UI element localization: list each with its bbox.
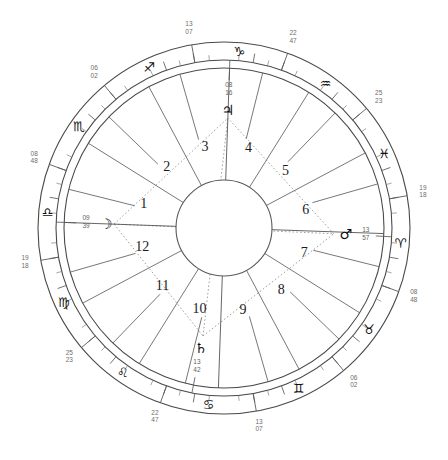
cusp-minute-sagittarius: 02: [91, 72, 99, 79]
cusp-minute-gemini: 02: [350, 381, 358, 388]
cusp-minute-aries: 18: [419, 191, 427, 198]
planet-degree-mars: 13: [362, 226, 370, 233]
house-number-8: 8: [278, 282, 285, 297]
house-number-4: 4: [245, 140, 252, 155]
cusp-degree-scorpio: 08: [31, 150, 39, 157]
zodiac-glyph-scorpio: ♏: [73, 119, 85, 134]
house-number-11: 11: [156, 278, 169, 293]
zodiac-glyph-sagittarius: ♐: [143, 60, 155, 75]
cusp-degree-capricorn: 13: [185, 20, 193, 27]
cusp-minute-virgo: 23: [66, 356, 74, 363]
cusp-degree-aries: 19: [419, 184, 427, 191]
planet-pointer-jupiter: [229, 60, 230, 80]
zodiac-glyph-taurus: ♉: [363, 322, 375, 337]
cusp-minute-capricorn: 07: [185, 28, 193, 35]
cusp-degree-gemini: 06: [350, 374, 358, 381]
planet-degree-jupiter: 08: [225, 81, 233, 88]
planet-minute-jupiter: 16: [225, 89, 233, 96]
zodiac-glyph-aquarius: ♒: [320, 76, 332, 91]
cusp-degree-taurus: 08: [410, 288, 418, 295]
cusp-degree-sagittarius: 06: [91, 64, 99, 71]
natal-chart-wheel[interactable]: 123456789101112 ♈♉♊♋♌♍♎♏♐♑♒♓ 19180848060…: [0, 0, 448, 460]
planet-degree-saturn: 13: [193, 358, 201, 365]
planet-pointer-mars: [376, 236, 392, 237]
house-number-6: 6: [302, 202, 309, 217]
house-number-9: 9: [239, 302, 246, 317]
zodiac-glyph-gemini: ♊: [293, 381, 305, 396]
natal-chart-root: 123456789101112 ♈♉♊♋♌♍♎♏♐♑♒♓ 19180848060…: [0, 0, 448, 460]
zodiac-glyph-leo: ♌: [117, 365, 129, 380]
cusp-degree-aquarius: 22: [289, 29, 297, 36]
house-number-7: 7: [301, 245, 308, 260]
cusp-degree-cancer: 13: [255, 418, 263, 425]
planet-glyph-jupiter[interactable]: ♃: [222, 102, 235, 118]
cusp-minute-cancer: 07: [255, 425, 263, 432]
cusp-minute-taurus: 48: [410, 296, 418, 303]
house-number-2: 2: [163, 159, 170, 174]
cusp-minute-pisces: 23: [375, 97, 383, 104]
planet-glyph-moon[interactable]: ☽: [100, 216, 113, 232]
cusp-degree-pisces: 25: [375, 89, 383, 96]
planet-minute-saturn: 42: [193, 366, 201, 373]
zodiac-glyph-capricorn: ♑: [234, 44, 246, 59]
cusp-minute-aquarius: 47: [289, 37, 297, 44]
cusp-degree-virgo: 25: [66, 349, 74, 356]
planet-pointer-moon: [56, 222, 76, 223]
planet-minute-mars: 57: [362, 234, 370, 241]
zodiac-glyph-libra: ♎: [42, 205, 54, 220]
zodiac-glyph-cancer: ♋: [203, 397, 215, 412]
zodiac-glyph-pisces: ♓: [379, 146, 391, 161]
planet-degree-moon: 09: [82, 214, 90, 221]
cusp-minute-scorpio: 48: [31, 157, 39, 164]
cusp-minute-leo: 47: [151, 416, 159, 423]
planet-minute-moon: 39: [82, 222, 90, 229]
cusp-minute-libra: 18: [21, 262, 29, 269]
cusp-degree-libra: 19: [21, 254, 29, 261]
chart-center-disc: [176, 180, 272, 276]
cusp-degree-leo: 22: [151, 409, 159, 416]
zodiac-glyph-virgo: ♍: [58, 295, 70, 310]
house-number-3: 3: [202, 139, 209, 154]
zodiac-glyph-aries: ♈: [395, 236, 407, 251]
planet-glyph-saturn[interactable]: ♄: [194, 340, 207, 356]
planet-glyph-mars[interactable]: ♂: [340, 226, 353, 242]
house-number-5: 5: [282, 163, 289, 178]
house-number-10: 10: [192, 301, 206, 316]
inner-center-disc: [176, 180, 272, 276]
house-number-12: 12: [135, 239, 149, 254]
house-number-1: 1: [140, 196, 147, 211]
